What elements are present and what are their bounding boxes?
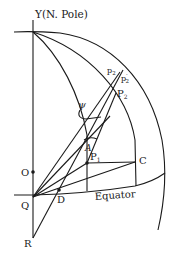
- label-C: C: [139, 155, 147, 166]
- label-equator: Equator: [94, 188, 136, 202]
- line-P1-C: [87, 162, 135, 163]
- label-Q: Q: [21, 200, 29, 211]
- point-P1: [85, 161, 89, 165]
- point-D: [57, 188, 61, 192]
- label-p2-prime: p′2: [121, 73, 129, 84]
- label-p2: p2: [107, 66, 116, 76]
- label-pole: Y(N. Pole): [34, 8, 88, 20]
- label-psi: ψ: [78, 99, 86, 110]
- outer-circle-arc: [14, 32, 165, 230]
- label-O: O: [21, 167, 29, 178]
- label-D: D: [57, 194, 65, 205]
- point-O: [31, 170, 35, 174]
- label-P1: P1: [90, 151, 101, 163]
- diagram-canvas: Y(N. Pole) Equator O Q D R C A ψ P1 P2 p…: [0, 0, 182, 262]
- label-P2: P2: [117, 88, 128, 100]
- label-R: R: [24, 238, 32, 249]
- line-Q-P2: [33, 72, 120, 197]
- line-R-p2: [33, 70, 123, 238]
